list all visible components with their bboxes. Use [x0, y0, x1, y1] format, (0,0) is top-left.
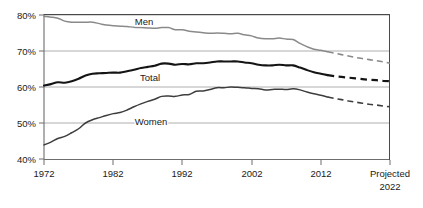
- series-line-men: [44, 16, 328, 51]
- total-label: Total: [140, 72, 160, 83]
- chart-plot-svg: 80% 70% 60% 50% 40% 1972 1982 1992 2002 …: [0, 0, 423, 208]
- x-tick-label-1982: 1982: [102, 168, 123, 179]
- x-tick-label-projected: Projected: [370, 168, 410, 179]
- series-labels: Men Men Total Total Women Women: [135, 16, 168, 127]
- x-tick-label-2002: 2002: [241, 168, 262, 179]
- y-tick-label-60: 60%: [17, 82, 37, 93]
- data-series: [44, 16, 390, 145]
- y-tick-label-70: 70%: [17, 46, 37, 57]
- series-line-women-projected: [328, 97, 390, 107]
- y-tick-label-40: 40%: [17, 154, 37, 165]
- women-label: Women: [135, 116, 168, 127]
- y-tickmarks: [39, 15, 44, 159]
- x-tick-label-1992: 1992: [171, 168, 192, 179]
- series-line-women: [44, 87, 328, 145]
- x-tick-label-2012: 2012: [310, 168, 331, 179]
- series-line-men-projected: [328, 52, 390, 64]
- x-tick-label-2022: 2022: [379, 181, 400, 192]
- men-label: Men: [135, 16, 153, 27]
- labor-force-participation-chart: 80% 70% 60% 50% 40% 1972 1982 1992 2002 …: [0, 0, 423, 208]
- series-line-total: [44, 61, 328, 85]
- y-tick-label-50: 50%: [17, 118, 37, 129]
- y-tick-labels: 80% 70% 60% 50% 40%: [17, 10, 37, 165]
- x-tickmarks: [44, 160, 390, 165]
- y-tick-label-80: 80%: [17, 10, 37, 21]
- x-tick-labels: 1972 1982 1992 2002 2012 Projected 2022: [33, 168, 410, 192]
- gridlines: [44, 15, 390, 123]
- x-tick-label-1972: 1972: [33, 168, 54, 179]
- series-line-total-projected: [328, 75, 390, 81]
